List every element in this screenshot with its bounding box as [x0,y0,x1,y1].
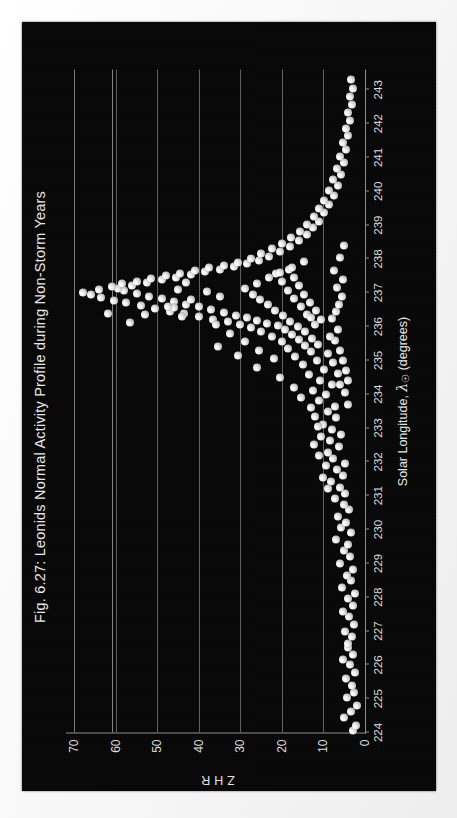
x-tick-239 [365,224,369,225]
data-point [290,294,298,302]
data-point [95,285,103,293]
data-point [257,249,265,257]
data-point [295,236,303,244]
data-point [303,220,311,228]
data-point [151,304,159,312]
x-tick-label-235: 235 [372,350,384,369]
data-point [309,386,317,394]
data-point [329,358,337,366]
data-point [339,655,347,663]
data-point [307,403,315,411]
data-point [247,323,255,331]
x-tick-label-229: 229 [372,553,384,572]
data-point [334,369,342,377]
data-point [263,319,271,327]
data-point [301,328,309,336]
data-point [158,294,166,302]
data-point [324,349,332,357]
data-point [226,329,234,337]
data-point [317,315,325,323]
y-tick-label-40: 40 [192,739,206,752]
scatter-chart: Fig. 6.27: Leonids Normal Activity Profi… [22,22,436,791]
data-point [286,242,294,250]
data-point [346,116,354,124]
scanned-page: Fig. 6.27: Leonids Normal Activity Profi… [0,0,457,818]
gridline-y-60 [116,69,117,732]
x-tick-234 [365,393,369,394]
x-tick-label-238: 238 [372,249,384,268]
data-point [324,448,332,456]
data-point [182,278,190,286]
data-point [346,92,354,100]
data-point [349,601,357,609]
x-tick-label-233: 233 [372,418,384,437]
data-point [337,430,345,438]
data-point [276,268,284,276]
data-point [278,239,286,247]
data-point [284,344,292,352]
x-tick-243 [365,88,369,89]
data-point [162,271,170,279]
data-point [331,402,339,410]
data-point [353,701,361,709]
x-axis-label-suffix: (degrees) [396,316,410,373]
x-tick-label-232: 232 [372,452,384,471]
x-tick-label-234: 234 [372,384,384,403]
data-point [329,454,337,462]
data-point [336,152,344,160]
data-point [249,290,257,298]
data-point [351,668,359,676]
data-point [336,346,344,354]
data-point [126,318,134,326]
data-point [347,75,355,83]
data-point [339,607,347,615]
figure-title: Fig. 6.27: Leonids Normal Activity Profi… [32,22,48,791]
x-tick-label-241: 241 [372,147,384,166]
x-tick-label-243: 243 [372,80,384,99]
data-point [344,131,352,139]
data-point [79,288,87,296]
data-point [344,108,352,116]
data-point [247,254,255,262]
data-point [342,124,350,132]
x-tick-226 [365,663,369,664]
data-point [335,442,343,450]
data-point [341,388,349,396]
x-axis-label-prefix: Solar Longitude, [396,391,410,486]
data-point [322,390,330,398]
data-point [300,257,308,265]
data-point [278,277,286,285]
gridline-y-70 [74,69,75,732]
data-point [320,196,328,204]
data-point [333,465,341,473]
data-point [270,354,278,362]
data-point [295,282,303,290]
x-tick-label-242: 242 [372,114,384,133]
data-point [342,366,350,374]
gridline-y-20 [282,69,283,732]
data-point [276,247,284,255]
data-point [310,212,318,220]
reference-line-0 [112,69,113,732]
data-point [311,412,319,420]
data-point [255,346,263,354]
x-tick-label-237: 237 [372,283,384,302]
x-tick-235 [365,359,369,360]
data-point [327,477,335,485]
data-point [224,317,232,325]
data-point [348,681,356,689]
data-point [338,583,346,591]
data-point [253,316,261,324]
data-point [334,512,342,520]
data-point [257,327,265,335]
data-point [265,273,273,281]
data-point [348,100,356,108]
x-tick-233 [365,427,369,428]
x-tick-227 [365,630,369,631]
x-tick-label-230: 230 [372,519,384,538]
data-point [299,360,307,368]
data-point [313,356,321,364]
data-point [205,263,213,271]
data-point [308,334,316,342]
data-point [290,273,298,281]
